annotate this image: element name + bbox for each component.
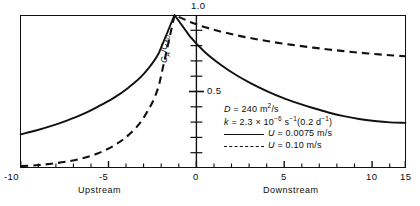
annotation-k-paren-open: (0.2 d <box>297 117 321 127</box>
annotation-rate-constant: k = 2.3 × 10−6 s−1(0.2 d−1) <box>224 116 332 127</box>
region-label-upstream: Upstream <box>78 186 121 195</box>
chart-svg <box>0 0 420 206</box>
x-axis-tick-label-5: 5 <box>281 172 287 182</box>
annotation-k-times: × <box>255 117 260 127</box>
figure-container: 1.0 CA/CA0 <box>0 0 420 206</box>
x-axis-tick-label-0: 0 <box>193 172 199 182</box>
x-axis-tick-label-15: 15 <box>400 172 411 182</box>
x-minor-ticks <box>38 164 389 169</box>
x-axis-tick-label-10: 10 <box>366 172 377 182</box>
annotation-d-symbol: D <box>224 104 231 114</box>
legend-label-u-0.10: U = 0.10 m/s <box>268 141 322 150</box>
annotation-k-paren-close: ) <box>329 117 332 127</box>
annotation-k-paren-exponent: −1 <box>321 115 329 122</box>
x-axis-tick-label--5: -5 <box>99 172 108 182</box>
y-axis-tick-label-0.5: 0.5 <box>207 86 221 96</box>
legend-label-u-0.0075: U = 0.0075 m/s <box>268 129 332 138</box>
annotation-k-base: 10 <box>264 117 274 127</box>
annotation-k-exponent: −6 <box>274 115 282 122</box>
legend2-equals: = <box>277 140 282 150</box>
x-axis-tick-label--10: -10 <box>4 172 19 182</box>
annotation-diffusivity: D = 240 m2/s <box>224 103 279 114</box>
region-label-downstream: Downstream <box>263 186 319 195</box>
annotation-k-symbol: k <box>224 117 229 127</box>
annotation-k-equals: = <box>231 117 236 127</box>
legend1-value: 0.0075 m/s <box>286 128 333 138</box>
annotation-k-value: 2.3 <box>240 117 253 127</box>
annotation-k-unit-exponent: −1 <box>289 115 297 122</box>
series-line-u-0.0075 <box>21 15 406 134</box>
legend1-equals: = <box>277 128 282 138</box>
legend-swatch-dashed <box>224 146 264 147</box>
legend-swatch-solid <box>224 134 264 135</box>
annotation-d-equals: = <box>233 104 238 114</box>
annotation-d-unit: /s <box>271 104 278 114</box>
x-major-ticks <box>21 161 406 168</box>
legend2-value: 0.10 m/s <box>286 140 322 150</box>
legend1-symbol: U <box>268 128 275 138</box>
legend2-symbol: U <box>268 140 275 150</box>
annotation-d-value: 240 m <box>242 104 268 114</box>
